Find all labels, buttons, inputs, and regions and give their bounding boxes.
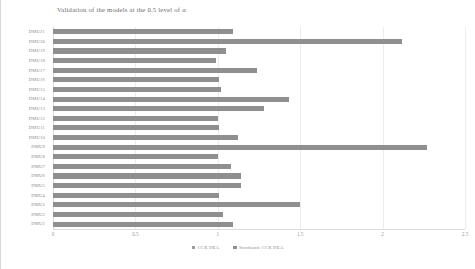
bar-row[interactable] [53, 37, 465, 47]
x-axis-tick-label: 0 [52, 231, 55, 237]
y-axis-category-label: DMU9 [31, 142, 45, 152]
bar-stochastic-ccr-dea[interactable] [53, 183, 241, 188]
chart-container: Validation of the models at the 0.5 leve… [0, 0, 475, 269]
bar-series-group [53, 27, 465, 229]
bar-stochastic-ccr-dea[interactable] [53, 77, 219, 82]
bar-row[interactable] [53, 152, 465, 162]
x-axis-tick-label: 1 [217, 231, 220, 237]
bar-row[interactable] [53, 142, 465, 152]
bar-stochastic-ccr-dea[interactable] [53, 87, 221, 92]
bar-stochastic-ccr-dea[interactable] [53, 135, 238, 140]
bar-row[interactable] [53, 104, 465, 114]
bar-row[interactable] [53, 94, 465, 104]
bar-stochastic-ccr-dea[interactable] [53, 106, 264, 111]
y-axis-category-labels: DMU21DMU20DMU19DMU18DMU17DMU16DMU15DMU14… [0, 27, 50, 229]
y-axis-category-label: DMU7 [31, 162, 45, 172]
y-axis-category-label: DMU18 [29, 56, 45, 66]
bar-stochastic-ccr-dea[interactable] [53, 68, 257, 73]
x-axis-tick-label: 0.5 [132, 231, 138, 237]
bar-row[interactable] [53, 46, 465, 56]
y-axis-category-label: DMU5 [31, 181, 45, 191]
bar-stochastic-ccr-dea[interactable] [53, 212, 223, 217]
x-axis-tick-labels: 00.511.522.5 [0, 231, 475, 241]
y-axis-category-label: DMU20 [29, 37, 45, 47]
y-axis-category-label: DMU15 [29, 85, 45, 95]
bar-row[interactable] [53, 200, 465, 210]
y-axis-category-label: DMU16 [29, 75, 45, 85]
legend-swatch-icon [192, 246, 195, 249]
bar-stochastic-ccr-dea[interactable] [53, 58, 216, 63]
bar-row[interactable] [53, 133, 465, 143]
y-axis-category-label: DMU4 [31, 191, 45, 201]
y-axis-category-label: DMU1 [31, 219, 45, 229]
plot-area [53, 27, 465, 229]
bar-stochastic-ccr-dea[interactable] [53, 202, 300, 207]
chart-title: Validation of the models at the 0.5 leve… [57, 6, 186, 13]
y-axis-category-label: DMU3 [31, 200, 45, 210]
y-axis-category-label: DMU19 [29, 46, 45, 56]
x-axis-tick-label: 2 [381, 231, 384, 237]
bar-row[interactable] [53, 162, 465, 172]
bar-row[interactable] [53, 171, 465, 181]
bar-row[interactable] [53, 181, 465, 191]
bar-stochastic-ccr-dea[interactable] [53, 222, 233, 227]
y-axis-category-label: DMU10 [29, 133, 45, 143]
bar-stochastic-ccr-dea[interactable] [53, 164, 231, 169]
bar-stochastic-ccr-dea[interactable] [53, 173, 241, 178]
chart-legend: CCR DEAStochastic CCR DEA [0, 245, 475, 250]
bar-stochastic-ccr-dea[interactable] [53, 29, 233, 34]
legend-label: Stochastic CCR DEA [239, 245, 283, 250]
y-axis-category-label: DMU2 [31, 210, 45, 220]
bar-stochastic-ccr-dea[interactable] [53, 145, 427, 150]
bar-stochastic-ccr-dea[interactable] [53, 97, 289, 102]
bar-stochastic-ccr-dea[interactable] [53, 48, 226, 53]
bar-row[interactable] [53, 219, 465, 229]
x-axis-line [53, 229, 465, 230]
x-axis-tick-label: 2.5 [462, 231, 468, 237]
legend-label: CCR DEA [198, 245, 220, 250]
bar-row[interactable] [53, 210, 465, 220]
bar-row[interactable] [53, 27, 465, 37]
bar-stochastic-ccr-dea[interactable] [53, 193, 219, 198]
bar-row[interactable] [53, 56, 465, 66]
y-axis-category-label: DMU13 [29, 104, 45, 114]
y-axis-category-label: DMU17 [29, 65, 45, 75]
y-axis-category-label: DMU21 [29, 27, 45, 37]
gridline [465, 27, 466, 229]
bar-row[interactable] [53, 191, 465, 201]
legend-entry[interactable]: CCR DEA [192, 245, 220, 250]
x-axis-tick-label: 1.5 [297, 231, 303, 237]
legend-swatch-icon [233, 246, 236, 249]
bar-stochastic-ccr-dea[interactable] [53, 39, 402, 44]
bar-row[interactable] [53, 123, 465, 133]
bar-stochastic-ccr-dea[interactable] [53, 154, 218, 159]
y-axis-category-label: DMU14 [29, 94, 45, 104]
y-axis-category-label: DMU6 [31, 171, 45, 181]
bar-row[interactable] [53, 75, 465, 85]
bar-row[interactable] [53, 114, 465, 124]
bar-stochastic-ccr-dea[interactable] [53, 125, 219, 130]
y-axis-category-label: DMU8 [31, 152, 45, 162]
bar-row[interactable] [53, 85, 465, 95]
y-axis-category-label: DMU12 [29, 114, 45, 124]
y-axis-category-label: DMU11 [29, 123, 45, 133]
bar-stochastic-ccr-dea[interactable] [53, 116, 218, 121]
legend-entry[interactable]: Stochastic CCR DEA [233, 245, 283, 250]
bar-row[interactable] [53, 65, 465, 75]
